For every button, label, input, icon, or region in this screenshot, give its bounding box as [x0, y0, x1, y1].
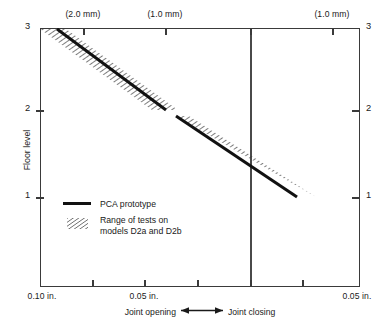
legend-item-pca-prototype: PCA prototype	[62, 199, 182, 209]
legend-label-test-range-line1: Range of tests on	[100, 215, 168, 225]
legend-item-test-range: Range of tests on models D2a and D2b	[62, 215, 182, 236]
chart-container: (2.0 mm) (1.0 mm) (1.0 mm) 0.10 in. 0.05…	[0, 0, 384, 331]
chart-legend: PCA prototype Range of tests on models D…	[62, 199, 182, 242]
range-band-lower	[176, 116, 316, 197]
legend-label-pca-prototype: PCA prototype	[100, 199, 156, 209]
legend-label-test-range-line2: models D2a and D2b	[100, 226, 182, 236]
hatch-swatch-icon	[62, 215, 92, 229]
pca-prototype-line-upper	[57, 29, 166, 110]
chart-data-layer	[0, 0, 384, 331]
solid-line-swatch-icon	[62, 199, 92, 205]
pca-prototype-line-lower	[176, 116, 297, 197]
